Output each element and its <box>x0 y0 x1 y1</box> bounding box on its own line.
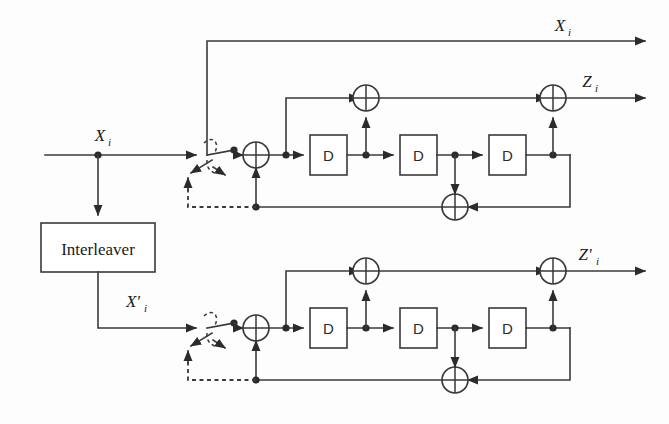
feedback-adder-bottom <box>442 367 468 393</box>
switch-arc-top <box>204 140 217 152</box>
parity-prime-output-base: Z' <box>578 245 591 264</box>
parity-output-base: Z <box>582 72 592 91</box>
switch-blade-bottom <box>207 323 234 328</box>
lower-rsc-encoder: D D D <box>188 258 645 393</box>
parity-output-sub: i <box>595 82 598 94</box>
diagram-canvas: Interleaver D <box>0 0 669 424</box>
input-adder-top <box>243 142 269 168</box>
switch-position-a-bottom <box>191 333 212 346</box>
delay-1-top-label: D <box>323 147 334 164</box>
systematic-output-label: X i <box>554 16 571 38</box>
turbo-encoder-diagram: Interleaver D <box>0 0 669 424</box>
input-signal-sub: i <box>108 136 111 148</box>
parity-output-label: Z i <box>582 72 598 94</box>
switch-position-b-top <box>213 167 225 175</box>
switch-arc-bottom <box>204 313 217 325</box>
delay-2-bottom-label: D <box>413 320 424 337</box>
wire-termination-dashed-top <box>188 182 256 207</box>
parity-prime-output-label: Z' i <box>578 245 599 267</box>
switch-position-b-bottom <box>213 340 225 348</box>
output-adder-bottom <box>540 258 566 284</box>
tap-preregister-top <box>282 151 289 158</box>
input-signal-base: X <box>94 126 106 145</box>
feedforward-adder-top <box>353 85 379 111</box>
trellis-switch-bottom[interactable] <box>191 313 243 348</box>
switch-blade-top <box>207 150 234 155</box>
interleaved-signal-base: X' <box>125 292 140 311</box>
delay-2-top-label: D <box>413 147 424 164</box>
input-signal-label: X i <box>94 126 111 148</box>
interleaver-block-group: Interleaver <box>41 223 196 328</box>
delay-3-top-label: D <box>502 147 513 164</box>
systematic-output-base: X <box>554 16 566 35</box>
output-adder-top <box>540 85 566 111</box>
delay-3-bottom-label: D <box>502 320 513 337</box>
tap-preregister-bottom <box>282 324 289 331</box>
feedback-adder-top <box>442 194 468 220</box>
wire-interleaver-to-lower <box>98 272 196 328</box>
trellis-switch-top[interactable] <box>191 140 243 175</box>
upper-rsc-encoder: D D D <box>188 85 645 220</box>
interleaver-label: Interleaver <box>61 240 135 259</box>
interleaved-signal-sub: i <box>144 302 147 314</box>
interleaved-signal-label: X' i <box>125 292 147 314</box>
wire-termination-dashed-bottom <box>188 355 256 380</box>
systematic-output-sub: i <box>568 26 571 38</box>
input-adder-bottom <box>243 315 269 341</box>
parity-prime-output-sub: i <box>596 255 599 267</box>
switch-position-a-top <box>191 160 212 173</box>
input-path-group <box>45 151 196 215</box>
feedforward-adder-bottom <box>353 258 379 284</box>
delay-1-bottom-label: D <box>323 320 334 337</box>
